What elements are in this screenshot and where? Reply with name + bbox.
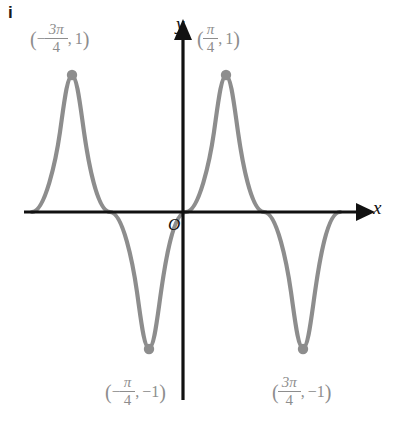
annotation-maximum-right: ( π 4 , 1 ) [197, 22, 240, 55]
comma: , [301, 384, 305, 400]
annotation-maximum-left: ( − 3π 4 , 1 ) [30, 22, 89, 55]
point-marker-minimum-right [298, 344, 308, 354]
close-paren: ) [325, 382, 332, 402]
open-paren: ( [105, 382, 112, 402]
fraction: 3π 4 [280, 375, 299, 408]
y-value: −1 [142, 384, 159, 400]
close-paren: ) [83, 29, 90, 49]
open-paren: ( [30, 29, 37, 49]
fraction-denominator: 4 [120, 391, 136, 408]
fraction-numerator: 3π [47, 22, 66, 38]
comma: , [68, 31, 72, 47]
y-value: −1 [308, 384, 325, 400]
fraction-numerator: 3π [280, 375, 299, 391]
origin-label: O [168, 216, 180, 233]
comma: , [218, 31, 222, 47]
point-marker-maximum-right [221, 70, 231, 80]
fraction-denominator: 4 [278, 391, 301, 408]
close-paren: ) [159, 382, 166, 402]
graph-figure: i y x O ( − 3π 4 , 1 ) ( [0, 0, 396, 426]
y-axis-label: y [176, 14, 184, 33]
point-marker-minimum-left [144, 344, 154, 354]
point-marker-maximum-left [67, 70, 77, 80]
annotation-minimum-right: ( 3π 4 , −1 ) [272, 375, 331, 408]
fraction: π 4 [205, 22, 217, 55]
annotation-minimum-left: ( − π 4 , −1 ) [105, 375, 166, 408]
fraction: π 4 [122, 375, 134, 408]
fraction-denominator: 4 [45, 38, 68, 55]
fraction-numerator: π [205, 22, 217, 38]
fraction: 3π 4 [47, 22, 66, 55]
fraction-numerator: π [122, 375, 134, 391]
y-value: 1 [75, 31, 83, 47]
fraction-denominator: 4 [203, 38, 219, 55]
close-paren: ) [233, 29, 240, 49]
comma: , [135, 384, 139, 400]
y-value: 1 [225, 31, 233, 47]
x-axis-label: x [373, 198, 381, 217]
coordinate-plane-svg [0, 0, 396, 426]
